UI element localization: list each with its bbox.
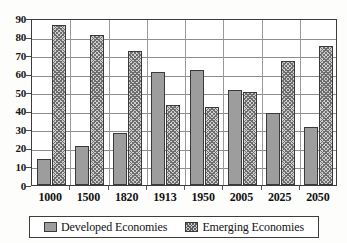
bar-2005-emerging-economies — [243, 92, 257, 185]
chart-legend: Developed Economies Emerging Economies — [29, 216, 319, 238]
bar-2050-emerging-economies — [319, 46, 333, 185]
bar-group-1950 — [185, 20, 223, 185]
y-axis-tick-60: 60 — [15, 69, 26, 80]
x-axis-label-1950: 1950 — [184, 190, 222, 205]
legend-entry-developed: Developed Economies — [44, 220, 167, 235]
y-axis-tick-50: 50 — [15, 88, 26, 99]
legend-label-emerging: Emerging Economies — [202, 220, 304, 235]
x-axis-label-2050: 2050 — [299, 190, 337, 205]
x-axis-label-1000: 1000 — [31, 190, 69, 205]
bar-group-1820 — [109, 20, 147, 185]
bar-2025-developed-economies — [266, 113, 280, 185]
y-axis-tick-40: 40 — [15, 106, 26, 117]
y-axis-tick-80: 80 — [15, 32, 26, 43]
bar-2050-developed-economies — [304, 127, 318, 185]
x-axis-label-1820: 1820 — [108, 190, 146, 205]
y-axis-tick-20: 20 — [15, 143, 26, 154]
bar-1500-developed-economies — [75, 146, 89, 185]
bar-1950-developed-economies — [190, 70, 204, 185]
bar-group-2025 — [262, 20, 300, 185]
legend-swatch-emerging-icon — [185, 222, 198, 232]
x-axis-label-2025: 2025 — [261, 190, 299, 205]
bar-2005-developed-economies — [228, 90, 242, 185]
bar-chart-figure: 0102030405060708090 10001500182019131950… — [0, 0, 347, 243]
y-axis-tick-10: 10 — [15, 162, 26, 173]
plot-area — [31, 19, 337, 186]
bar-series-container — [32, 20, 336, 185]
bar-1820-developed-economies — [113, 133, 127, 185]
x-axis-label-1913: 1913 — [146, 190, 184, 205]
bar-group-2050 — [300, 20, 338, 185]
x-axis-label-2005: 2005 — [222, 190, 260, 205]
bar-1913-developed-economies — [151, 72, 165, 185]
bar-group-2005 — [223, 20, 261, 185]
bar-1913-emerging-economies — [166, 105, 180, 185]
x-axis-tick-labels: 10001500182019131950200520252050 — [31, 190, 337, 207]
legend-swatch-developed-icon — [44, 222, 57, 232]
bar-1950-emerging-economies — [205, 107, 219, 185]
y-axis-tick-labels: 0102030405060708090 — [2, 14, 26, 186]
bar-group-1500 — [70, 20, 108, 185]
bar-1820-emerging-economies — [128, 51, 142, 185]
bar-group-1000 — [32, 20, 70, 185]
legend-entry-emerging: Emerging Economies — [185, 220, 304, 235]
y-axis-tick-70: 70 — [15, 51, 26, 62]
bar-2025-emerging-economies — [281, 61, 295, 185]
bar-1500-emerging-economies — [90, 35, 104, 185]
bar-group-1913 — [147, 20, 185, 185]
chart-page: 0102030405060708090 10001500182019131950… — [0, 0, 347, 243]
y-axis-tick-30: 30 — [15, 125, 26, 136]
y-axis-tick-90: 90 — [15, 14, 26, 25]
bar-1000-emerging-economies — [52, 25, 66, 185]
bar-1000-developed-economies — [37, 159, 51, 185]
x-axis-label-1500: 1500 — [69, 190, 107, 205]
legend-label-developed: Developed Economies — [61, 220, 167, 235]
